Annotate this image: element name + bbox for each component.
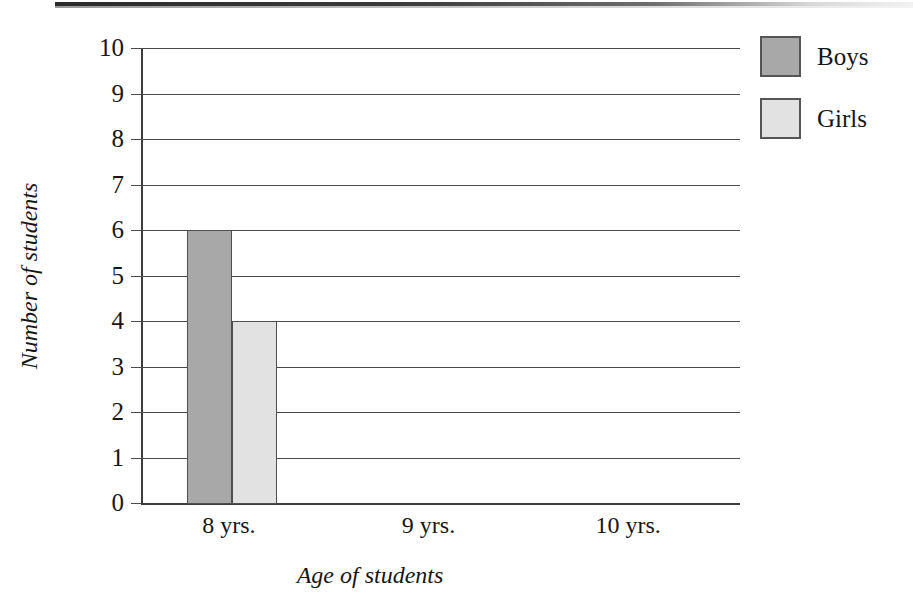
y-axis-tick-label: 4 bbox=[78, 308, 124, 333]
y-axis-tick bbox=[131, 367, 141, 368]
x-axis-category-label: 8 yrs. bbox=[149, 513, 309, 537]
gridline bbox=[141, 94, 740, 95]
y-axis-tick-label: 1 bbox=[78, 445, 124, 470]
y-axis-tick-label: 8 bbox=[78, 126, 124, 151]
y-axis-tick bbox=[131, 48, 141, 49]
bar-boys-0 bbox=[187, 230, 232, 504]
page-scan-edge-shadow bbox=[55, 6, 913, 8]
y-axis-tick-label: 10 bbox=[78, 35, 124, 60]
plot-area bbox=[141, 48, 740, 503]
y-axis-tick bbox=[131, 321, 141, 322]
x-axis-category-label: 10 yrs. bbox=[548, 513, 708, 537]
y-axis-tick-label: 0 bbox=[78, 490, 124, 515]
x-axis-category-label: 9 yrs. bbox=[349, 513, 509, 537]
x-axis-title: Age of students bbox=[0, 562, 740, 589]
legend-label-boys: Boys bbox=[817, 44, 868, 69]
y-axis-tick-label: 6 bbox=[78, 217, 124, 242]
y-axis-tick-label: 2 bbox=[78, 399, 124, 424]
bar-girls-0 bbox=[232, 321, 277, 504]
legend-swatch-girls bbox=[760, 98, 801, 139]
gridline bbox=[141, 185, 740, 186]
y-axis-tick-label: 5 bbox=[78, 263, 124, 288]
y-axis-title: Number of students bbox=[16, 182, 43, 369]
gridline bbox=[141, 48, 740, 49]
y-axis-tick-label: 9 bbox=[78, 81, 124, 106]
y-axis-tick bbox=[131, 276, 141, 277]
y-axis-tick bbox=[131, 185, 141, 186]
gridline bbox=[141, 139, 740, 140]
y-axis-title-container: Number of students bbox=[6, 48, 52, 503]
y-axis-tick bbox=[131, 458, 141, 459]
y-axis-tick bbox=[131, 230, 141, 231]
legend-label-girls: Girls bbox=[817, 106, 867, 131]
y-axis-tick bbox=[131, 503, 141, 504]
legend-swatch-boys bbox=[760, 36, 801, 77]
legend-item-girls[interactable]: Girls bbox=[760, 98, 867, 139]
y-axis-tick-labels: 012345678910 bbox=[78, 0, 124, 602]
y-axis-tick-label: 3 bbox=[78, 354, 124, 379]
y-axis-tick-label: 7 bbox=[78, 172, 124, 197]
y-axis-tick bbox=[131, 94, 141, 95]
chart-page: Number of students 012345678910 8 yrs.9 … bbox=[0, 0, 913, 602]
y-axis-tick bbox=[131, 139, 141, 140]
legend-item-boys[interactable]: Boys bbox=[760, 36, 868, 77]
y-axis-tick bbox=[131, 412, 141, 413]
